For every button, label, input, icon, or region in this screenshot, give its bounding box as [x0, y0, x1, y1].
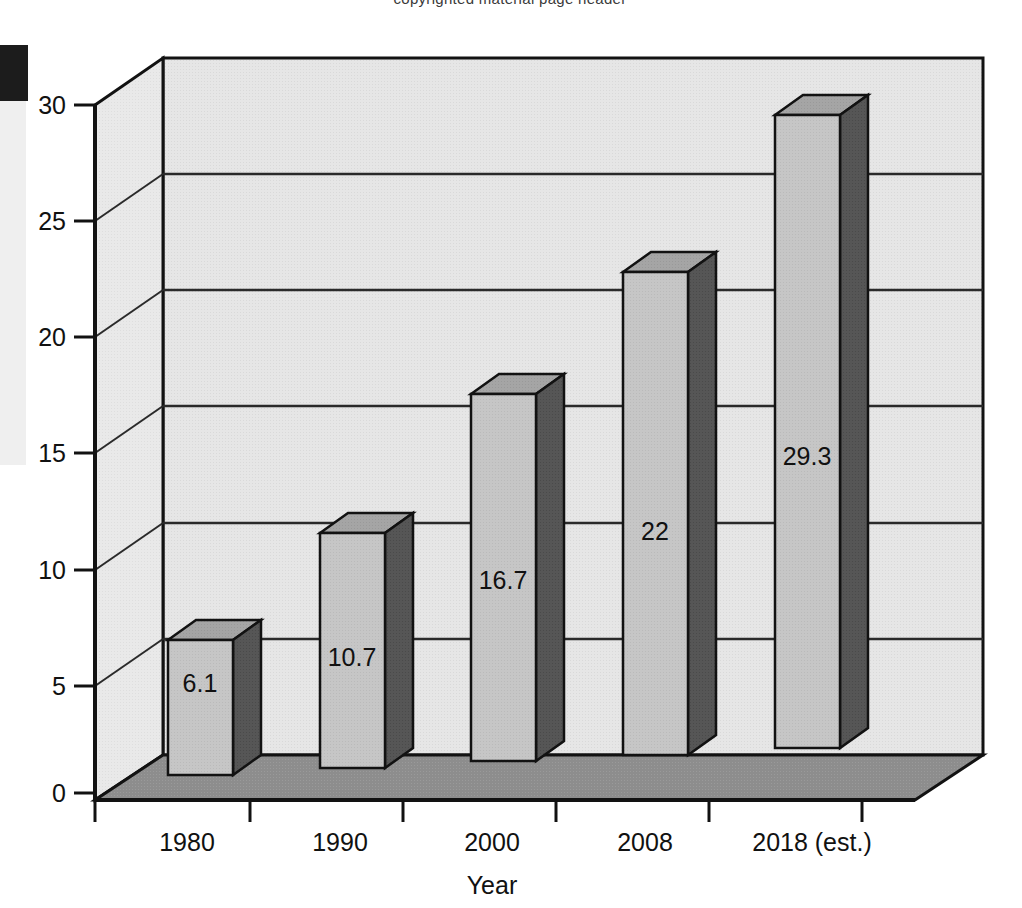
bar-side-face — [688, 252, 716, 755]
bar-value-label-2000: 16.7 — [479, 566, 528, 594]
bar-2000: 16.7 — [471, 374, 564, 761]
xtick-label-1980: 1980 — [159, 828, 215, 856]
bar-front-face — [775, 115, 840, 748]
bar-side-face — [840, 95, 868, 748]
ytick-label-5: 5 — [52, 672, 66, 700]
x-axis-title: Year — [467, 871, 518, 899]
xtick-label-2008: 2008 — [617, 828, 673, 856]
scan-shadow-block — [0, 45, 28, 101]
chart-figure: copyrighted material page header — [0, 0, 1022, 908]
bar-side-face — [536, 374, 564, 761]
ytick-label-20: 20 — [38, 323, 66, 351]
xtick-label-2018: 2018 (est.) — [752, 828, 872, 856]
scan-edge-strip — [0, 101, 26, 465]
bar-side-face — [385, 513, 413, 768]
bar-front-face — [168, 640, 233, 775]
value-axis-tick-labels: 30 25 20 15 10 5 0 — [38, 91, 66, 807]
bar-2008: 22 — [623, 252, 716, 755]
bar-side-face — [233, 620, 261, 775]
bar-front-face — [623, 272, 688, 755]
xtick-label-2000: 2000 — [464, 828, 520, 856]
bar-value-label-2018: 29.3 — [783, 442, 832, 470]
ytick-label-30: 30 — [38, 91, 66, 119]
ytick-label-25: 25 — [38, 207, 66, 235]
bar-chart-3d: 30 25 20 15 10 5 0 6.1 10.7 — [0, 0, 1022, 908]
ytick-label-0: 0 — [52, 779, 66, 807]
value-axis — [74, 105, 95, 800]
clipped-header-text: copyrighted material page header — [300, 0, 720, 7]
bar-2018: 29.3 — [775, 95, 868, 748]
ytick-label-10: 10 — [38, 556, 66, 584]
xtick-label-1990: 1990 — [312, 828, 368, 856]
bar-1980: 6.1 — [168, 620, 261, 775]
bar-value-label-1990: 10.7 — [328, 643, 377, 671]
bar-value-label-1980: 6.1 — [183, 669, 218, 697]
bar-1990: 10.7 — [320, 513, 413, 768]
year-axis-tick-labels: 1980 1990 2000 2008 2018 (est.) — [159, 828, 872, 856]
year-axis — [95, 800, 915, 822]
ytick-label-15: 15 — [38, 439, 66, 467]
bar-value-label-2008: 22 — [641, 517, 669, 545]
